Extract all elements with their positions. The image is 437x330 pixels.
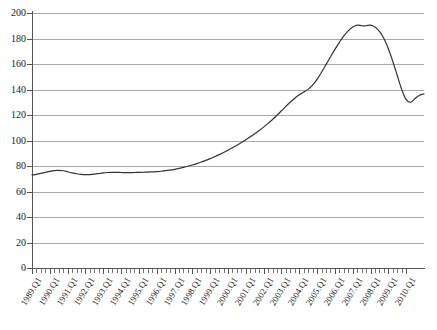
x-tick-minor: [90, 269, 91, 273]
x-tick-major: [157, 269, 158, 274]
x-tick-minor: [259, 269, 260, 273]
x-tick-minor: [313, 269, 314, 273]
x-tick-major: [406, 269, 407, 274]
x-tick-minor: [277, 269, 278, 273]
x-tick-major: [68, 269, 69, 274]
gridline: [32, 90, 424, 91]
gridline: [32, 166, 424, 167]
x-tick-minor: [148, 269, 149, 273]
x-tick-minor: [255, 269, 256, 273]
x-tick-minor: [357, 269, 358, 273]
x-tick-minor: [290, 269, 291, 273]
x-tick-minor: [304, 269, 305, 273]
gridline: [32, 64, 424, 65]
y-tick-mark: [27, 243, 33, 244]
x-tick-minor: [219, 269, 220, 273]
x-tick-minor: [94, 269, 95, 273]
y-tick-mark: [27, 13, 33, 14]
y-tick-mark: [27, 90, 33, 91]
x-tick-minor: [112, 269, 113, 273]
x-tick-major: [210, 269, 211, 274]
x-tick-major: [264, 269, 265, 274]
x-tick-minor: [179, 269, 180, 273]
x-tick-minor: [330, 269, 331, 273]
x-tick-minor: [339, 269, 340, 273]
x-tick-minor: [268, 269, 269, 273]
x-tick-minor: [241, 269, 242, 273]
y-tick-label: 140: [0, 85, 26, 95]
x-tick-minor: [45, 269, 46, 273]
x-tick-minor: [72, 269, 73, 273]
x-tick-minor: [273, 269, 274, 273]
y-tick-mark: [27, 141, 33, 142]
x-tick-minor: [170, 269, 171, 273]
x-tick-major: [246, 269, 247, 274]
x-tick-minor: [250, 269, 251, 273]
x-tick-minor: [152, 269, 153, 273]
x-tick-major: [139, 269, 140, 274]
x-tick-major: [281, 269, 282, 274]
y-tick-mark: [27, 115, 33, 116]
plot-area: [32, 13, 424, 268]
x-tick-minor: [130, 269, 131, 273]
gridline: [32, 217, 424, 218]
x-tick-major: [103, 269, 104, 274]
x-tick-minor: [379, 269, 380, 273]
x-tick-minor: [188, 269, 189, 273]
x-tick-minor: [384, 269, 385, 273]
x-tick-minor: [295, 269, 296, 273]
x-tick-minor: [393, 269, 394, 273]
x-tick-major: [121, 269, 122, 274]
x-tick-minor: [308, 269, 309, 273]
x-tick-minor: [59, 269, 60, 273]
x-tick-minor: [362, 269, 363, 273]
line-chart: 200180160140120100806040200 1989.Q11990.…: [0, 0, 437, 330]
gridline: [32, 141, 424, 142]
x-tick-minor: [166, 269, 167, 273]
y-tick-label: 0: [0, 263, 26, 273]
x-tick-major: [353, 269, 354, 274]
x-tick-major: [228, 269, 229, 274]
x-tick-minor: [224, 269, 225, 273]
x-tick-minor: [99, 269, 100, 273]
x-tick-major: [299, 269, 300, 274]
y-tick-label: 60: [0, 187, 26, 197]
gridline: [32, 13, 424, 14]
x-tick-minor: [397, 269, 398, 273]
gridline: [32, 115, 424, 116]
x-tick-major: [85, 269, 86, 274]
x-tick-minor: [375, 269, 376, 273]
x-tick-minor: [134, 269, 135, 273]
y-tick-label: 120: [0, 110, 26, 120]
x-tick-minor: [402, 269, 403, 273]
x-tick-major: [335, 269, 336, 274]
y-tick-label: 80: [0, 161, 26, 171]
gridline: [32, 192, 424, 193]
x-tick-minor: [201, 269, 202, 273]
x-tick-minor: [108, 269, 109, 273]
y-tick-mark: [27, 64, 33, 65]
y-tick-label: 200: [0, 8, 26, 18]
y-tick-label: 40: [0, 212, 26, 222]
x-tick-minor: [326, 269, 327, 273]
y-tick-label: 160: [0, 59, 26, 69]
x-tick-minor: [366, 269, 367, 273]
x-tick-minor: [197, 269, 198, 273]
x-tick-minor: [126, 269, 127, 273]
x-tick-minor: [161, 269, 162, 273]
x-tick-minor: [232, 269, 233, 273]
x-tick-minor: [206, 269, 207, 273]
x-tick-major: [50, 269, 51, 274]
gridline: [32, 243, 424, 244]
x-tick-major: [317, 269, 318, 274]
y-tick-mark: [27, 192, 33, 193]
x-tick-minor: [63, 269, 64, 273]
x-tick-minor: [215, 269, 216, 273]
y-tick-mark: [27, 217, 33, 218]
x-tick-minor: [143, 269, 144, 273]
x-tick-minor: [81, 269, 82, 273]
x-tick-major: [192, 269, 193, 274]
x-tick-minor: [36, 269, 37, 273]
x-tick-minor: [183, 269, 184, 273]
y-tick-label: 180: [0, 34, 26, 44]
